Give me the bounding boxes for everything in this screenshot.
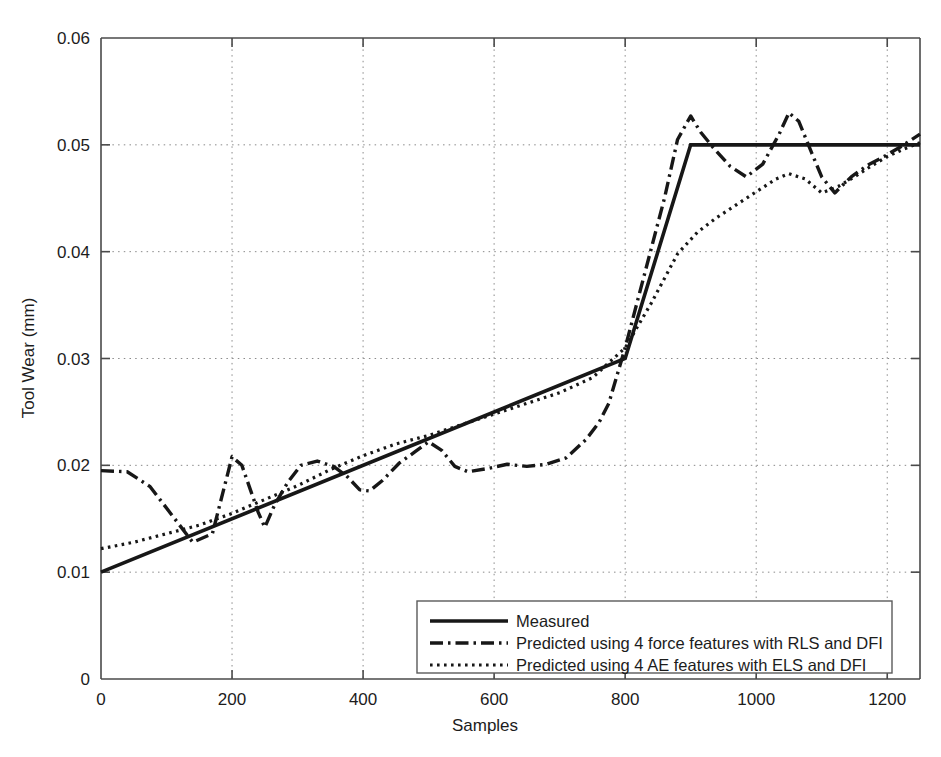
legend-label: Measured [516, 612, 589, 630]
y-tick-label: 0.01 [57, 563, 90, 582]
x-tick-label: 200 [218, 690, 246, 709]
legend-label: Predicted using 4 AE features with ELS a… [516, 656, 866, 674]
y-tick-label: 0.03 [57, 350, 90, 369]
y-tick-label: 0.04 [57, 243, 90, 262]
y-tick-label: 0.02 [57, 456, 90, 475]
y-axis-title: Tool Wear (mm) [19, 298, 38, 419]
y-tick-label: 0 [81, 670, 90, 689]
x-tick-label: 400 [349, 690, 377, 709]
tool-wear-line-chart: 00.010.020.030.040.050.06 02004006008001… [0, 0, 941, 757]
x-tick-label: 800 [611, 690, 639, 709]
x-tick-label: 0 [96, 690, 105, 709]
x-tick-label: 1200 [868, 690, 906, 709]
x-tick-label: 600 [480, 690, 508, 709]
legend-label: Predicted using 4 force features with RL… [516, 634, 883, 652]
y-tick-label: 0.06 [57, 29, 90, 48]
y-tick-label: 0.05 [57, 136, 90, 155]
figure-container: 00.010.020.030.040.050.06 02004006008001… [0, 0, 941, 757]
x-axis-title: Samples [452, 716, 518, 735]
legend: MeasuredPredicted using 4 force features… [417, 601, 892, 674]
x-tick-label: 1000 [737, 690, 775, 709]
